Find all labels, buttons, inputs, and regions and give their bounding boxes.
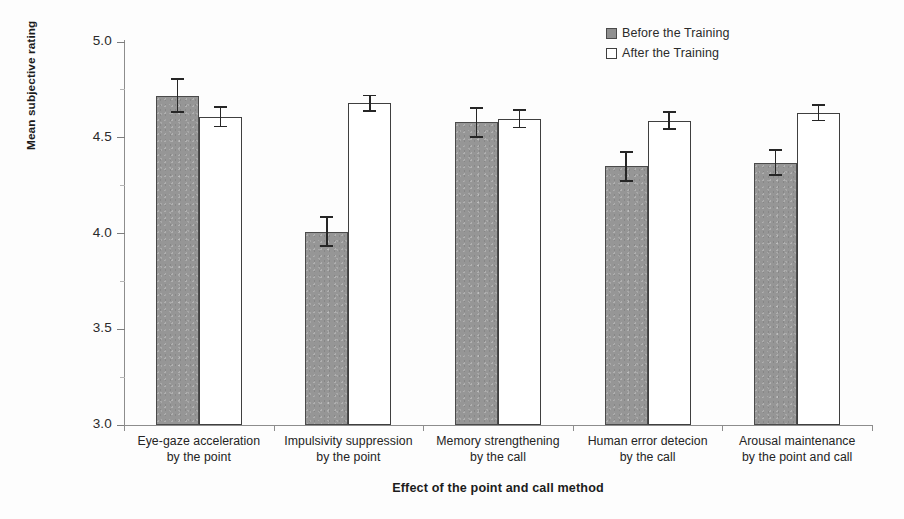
category-label: Human error detecionby the call <box>561 434 735 465</box>
error-bar <box>156 78 199 112</box>
category-label-line2: by the call <box>411 450 585 466</box>
bar-before <box>305 232 348 425</box>
y-tick-minor <box>120 89 125 90</box>
y-tick-label: 5.0 <box>72 33 112 48</box>
bar-before <box>455 122 498 425</box>
error-bar-cap-bottom <box>171 111 184 113</box>
error-bar <box>498 109 541 128</box>
error-bar-stem <box>177 78 179 112</box>
category-label-line2: by the point <box>112 450 286 466</box>
category-label-line1: Human error detecion <box>588 434 708 448</box>
y-tick-minor <box>120 377 125 378</box>
error-bar <box>455 107 498 138</box>
y-tick-label: 4.5 <box>72 129 112 144</box>
y-tick-label: 3.5 <box>72 320 112 335</box>
error-bar-stem <box>625 151 627 182</box>
error-bar-cap-bottom <box>214 126 227 128</box>
x-axis-title: Effect of the point and call method <box>124 481 872 495</box>
error-bar-stem <box>775 149 777 176</box>
y-tick-mark <box>117 137 125 138</box>
error-bar-cap-top <box>663 111 676 113</box>
error-bar-stem <box>476 107 478 138</box>
bar-before <box>754 163 797 425</box>
legend-item-before: Before the Training <box>606 24 730 42</box>
chart-legend: Before the Training After the Training <box>606 24 730 64</box>
category-label: Memory strengtheningby the call <box>411 434 585 465</box>
error-bar-cap-bottom <box>320 245 333 247</box>
bar-after <box>348 103 391 425</box>
bar-after <box>648 121 691 425</box>
error-bar <box>754 149 797 176</box>
category-label-line2: by the point and call <box>710 450 884 466</box>
error-bar-cap-bottom <box>363 110 376 112</box>
error-bar-stem <box>369 95 371 112</box>
legend-item-after: After the Training <box>606 44 730 62</box>
category-label-line1: Memory strengthening <box>436 434 559 448</box>
y-axis-title: Mean subjective rating <box>24 0 38 150</box>
x-axis-line <box>124 425 872 426</box>
category-label: Arousal maintenanceby the point and call <box>710 434 884 465</box>
y-tick-mark <box>117 233 125 234</box>
y-tick-minor <box>120 281 125 282</box>
legend-swatch-after-icon <box>606 48 617 59</box>
x-tick-mark <box>872 425 873 431</box>
error-bar-stem <box>668 111 670 130</box>
error-bar-cap-top <box>171 78 184 80</box>
legend-label-after: After the Training <box>622 46 719 60</box>
x-tick-mark <box>423 425 424 431</box>
error-bar-cap-top <box>363 95 376 97</box>
x-tick-mark <box>722 425 723 431</box>
error-bar <box>648 111 691 130</box>
error-bar-cap-bottom <box>663 128 676 130</box>
y-tick-mark <box>117 329 125 330</box>
x-tick-mark <box>274 425 275 431</box>
error-bar-stem <box>519 109 521 128</box>
y-tick-minor <box>120 185 125 186</box>
error-bar-cap-bottom <box>769 174 782 176</box>
error-bar-cap-bottom <box>470 136 483 138</box>
error-bar <box>605 151 648 182</box>
category-label-line1: Impulsivity suppression <box>284 434 412 448</box>
error-bar-cap-top <box>769 149 782 151</box>
x-tick-mark <box>573 425 574 431</box>
category-label: Impulsivity suppressionby the point <box>262 434 436 465</box>
error-bar <box>348 95 391 112</box>
error-bar-cap-top <box>470 107 483 109</box>
error-bar-stem <box>220 106 222 127</box>
error-bar-cap-top <box>214 106 227 108</box>
error-bar-stem <box>818 104 820 121</box>
category-label-line2: by the point <box>262 450 436 466</box>
x-tick-mark <box>124 425 125 431</box>
bar-before <box>605 166 648 425</box>
legend-swatch-before-icon <box>606 28 617 39</box>
y-tick-mark <box>117 42 125 43</box>
bar-before <box>156 96 199 425</box>
bar-chart-figure: 5.04.54.03.53.0 Eye-gaze accelerationby … <box>0 0 904 519</box>
error-bar-cap-top <box>513 109 526 111</box>
legend-label-before: Before the Training <box>622 26 730 40</box>
y-tick-label: 3.0 <box>72 416 112 431</box>
error-bar <box>199 106 242 127</box>
bar-after <box>199 117 242 425</box>
error-bar-cap-bottom <box>513 127 526 129</box>
y-tick-label: 4.0 <box>72 225 112 240</box>
category-label: Eye-gaze accelerationby the point <box>112 434 286 465</box>
category-label-line1: Eye-gaze acceleration <box>137 434 260 448</box>
category-label-line1: Arousal maintenance <box>739 434 855 448</box>
error-bar-cap-top <box>320 216 333 218</box>
error-bar-cap-bottom <box>812 120 825 122</box>
bar-after <box>797 113 840 425</box>
error-bar <box>797 104 840 121</box>
bar-after <box>498 119 541 425</box>
error-bar-stem <box>326 216 328 247</box>
category-label-line2: by the call <box>561 450 735 466</box>
error-bar-cap-top <box>812 104 825 106</box>
error-bar-cap-bottom <box>620 180 633 182</box>
error-bar-cap-top <box>620 151 633 153</box>
error-bar <box>305 216 348 247</box>
